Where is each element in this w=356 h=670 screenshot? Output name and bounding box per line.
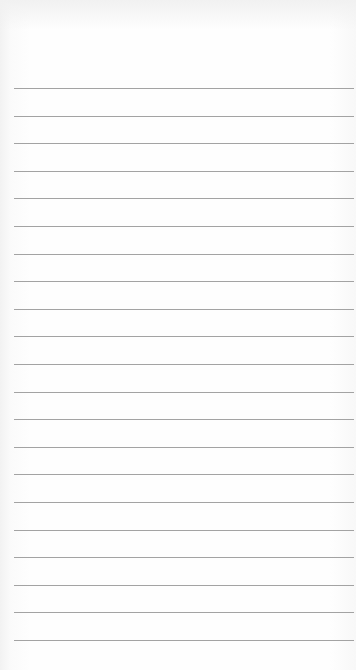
ruled-line xyxy=(14,392,354,393)
ruled-line xyxy=(14,612,354,613)
ruled-line xyxy=(14,419,354,420)
ruled-line xyxy=(14,364,354,365)
ruled-line xyxy=(14,557,354,558)
ruled-line xyxy=(14,116,354,117)
ruled-line xyxy=(14,254,354,255)
ruled-line xyxy=(14,198,354,199)
ruled-line xyxy=(14,474,354,475)
ruled-line xyxy=(14,640,354,641)
ruled-line xyxy=(14,336,354,337)
ruled-line xyxy=(14,143,354,144)
ruled-line xyxy=(14,88,354,89)
ruled-line xyxy=(14,171,354,172)
ruled-line xyxy=(14,530,354,531)
ruled-line xyxy=(14,226,354,227)
lined-paper xyxy=(0,0,356,670)
ruled-line xyxy=(14,502,354,503)
ruled-line xyxy=(14,309,354,310)
ruled-line xyxy=(14,585,354,586)
ruled-line xyxy=(14,281,354,282)
ruled-line xyxy=(14,447,354,448)
